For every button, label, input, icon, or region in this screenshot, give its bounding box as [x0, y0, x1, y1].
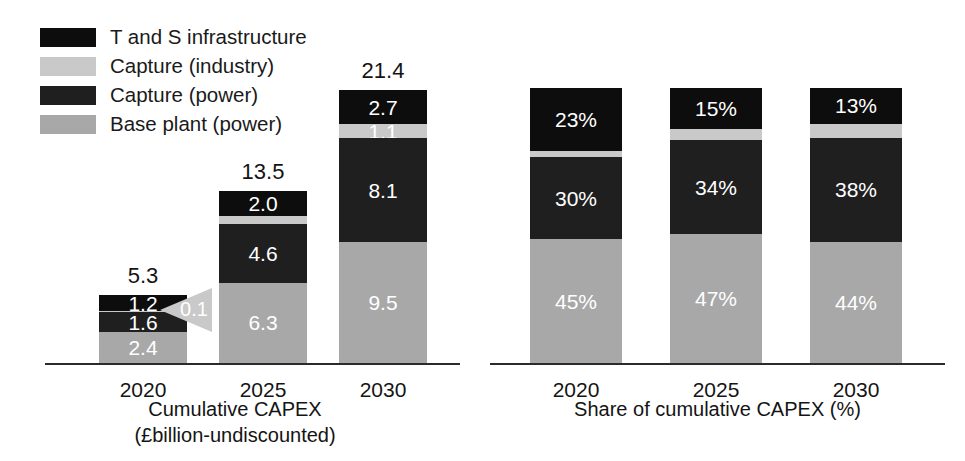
bar-segment-capture_power-2030: 38% — [810, 138, 902, 243]
bar-segment-capture_industry-2030: 1.1 — [339, 124, 427, 138]
x-axis-caption-left-line1: Cumulative CAPEX — [0, 396, 470, 422]
bar-segment-label-tands-2030: 2.7 — [368, 97, 397, 118]
bar-segment-capture_industry-2025: 0.6 — [219, 216, 307, 224]
bar-segment-base_plant_power-2030: 9.5 — [339, 242, 427, 363]
bar-total-label-2020: 5.3 — [99, 265, 187, 287]
bar-segment-label-capture_power-2025: 34% — [695, 177, 737, 198]
bar-segment-label-base_plant_power-2030: 9.5 — [368, 292, 397, 313]
bar-segment-capture_power-2020: 30% — [530, 157, 622, 240]
bar-total-label-2025: 13.5 — [219, 161, 307, 183]
bar-segment-capture_industry-2025: 4% — [670, 129, 762, 140]
bar-segment-capture_power-2025: 34% — [670, 140, 762, 234]
bar-segment-capture_power-2025: 4.6 — [219, 224, 307, 283]
x-axis-caption-left-line2: (£billion-undiscounted) — [0, 422, 470, 448]
bar-share-of-cumulative-capex-2025: 47%34%4%15% — [670, 88, 762, 363]
bar-segment-capture_industry-2020: 2% — [530, 151, 622, 157]
plot-area-cumulative-capex: 2.41.60.11.25.320206.34.60.62.013.520259… — [0, 0, 470, 461]
plot-area-share-of-capex: 45%30%2%23%202047%34%4%15%202544%38%5%13… — [470, 0, 965, 461]
bar-segment-capture_power-2030: 8.1 — [339, 138, 427, 241]
chart-cumulative-capex: 2.41.60.11.25.320206.34.60.62.013.520259… — [0, 0, 470, 461]
bar-cumulative-capex-2025: 6.34.60.62.0 — [219, 191, 307, 363]
callout-value-label: 0.1 — [174, 299, 214, 319]
bar-segment-label-tands-2030: 13% — [835, 95, 877, 116]
bar-segment-label-tands-2020: 1.2 — [128, 295, 157, 310]
bar-segment-base_plant_power-2020: 2.4 — [99, 332, 187, 363]
bar-segment-label-tands-2025: 2.0 — [248, 193, 277, 214]
bar-segment-label-capture_power-2030: 38% — [835, 179, 877, 200]
bar-segment-capture_industry-2030: 5% — [810, 124, 902, 138]
bar-segment-label-base_plant_power-2025: 47% — [695, 288, 737, 309]
bar-segment-label-tands-2020: 23% — [555, 109, 597, 130]
bar-segment-label-base_plant_power-2020: 2.4 — [128, 337, 157, 358]
bar-segment-label-capture_power-2025: 4.6 — [248, 243, 277, 264]
bar-segment-tands-2025: 2.0 — [219, 191, 307, 217]
x-axis-line — [490, 363, 945, 365]
bar-segment-label-capture_power-2030: 8.1 — [368, 180, 397, 201]
bar-cumulative-capex-2030: 9.58.11.12.7 — [339, 90, 427, 363]
bar-total-label-2030: 21.4 — [339, 60, 427, 82]
bar-segment-base_plant_power-2030: 44% — [810, 242, 902, 363]
x-axis-caption-left: Cumulative CAPEX(£billion-undiscounted) — [0, 396, 470, 448]
bar-segment-base_plant_power-2020: 45% — [530, 239, 622, 363]
x-axis-line — [45, 363, 460, 365]
bar-segment-label-base_plant_power-2020: 45% — [555, 291, 597, 312]
bar-segment-tands-2030: 2.7 — [339, 90, 427, 124]
x-axis-caption-right: Share of cumulative CAPEX (%) — [470, 396, 965, 422]
bar-segment-label-capture_industry-2030: 1.1 — [368, 124, 397, 138]
bar-segment-tands-2025: 15% — [670, 88, 762, 129]
bar-segment-tands-2030: 13% — [810, 88, 902, 124]
x-axis-caption-right-line1: Share of cumulative CAPEX (%) — [470, 396, 965, 422]
bar-segment-label-capture_power-2020: 30% — [555, 188, 597, 209]
bar-segment-label-capture_power-2020: 1.6 — [128, 312, 157, 332]
bar-segment-label-tands-2025: 15% — [695, 98, 737, 119]
callout-annotation-0.1: 0.1 — [160, 288, 214, 332]
bar-share-of-cumulative-capex-2030: 44%38%5%13% — [810, 88, 902, 363]
bar-segment-tands-2020: 23% — [530, 88, 622, 151]
bar-segment-label-base_plant_power-2025: 6.3 — [248, 312, 277, 333]
bar-segment-base_plant_power-2025: 6.3 — [219, 283, 307, 363]
bar-segment-label-base_plant_power-2030: 44% — [835, 292, 877, 313]
bar-segment-base_plant_power-2025: 47% — [670, 234, 762, 363]
bar-share-of-cumulative-capex-2020: 45%30%2%23% — [530, 88, 622, 363]
chart-share-of-cumulative-capex: 45%30%2%23%202047%34%4%15%202544%38%5%13… — [470, 0, 965, 461]
